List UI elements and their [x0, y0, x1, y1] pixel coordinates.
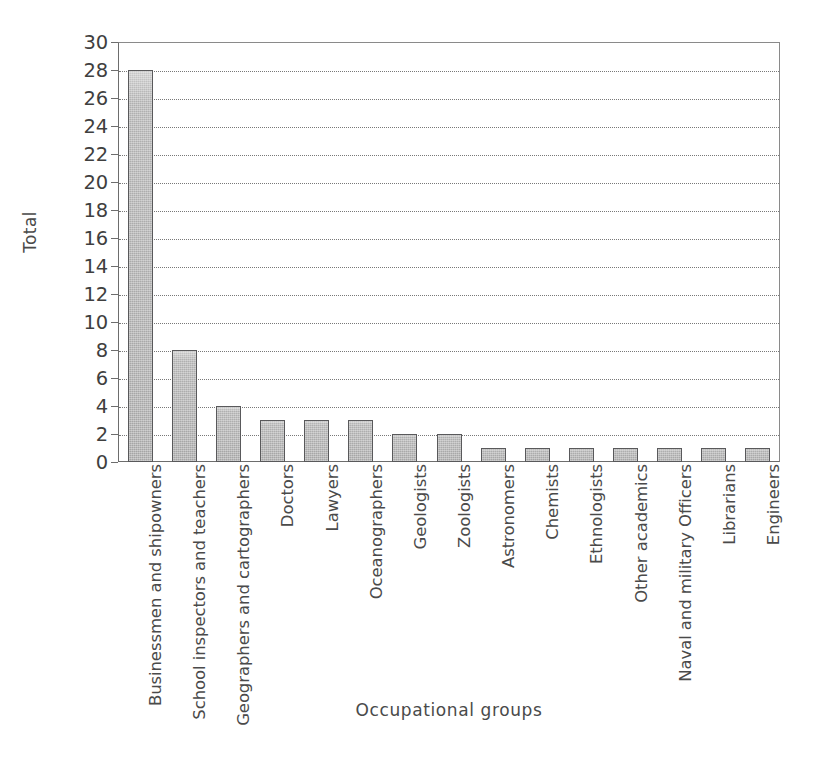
bar[interactable] — [657, 448, 682, 462]
bar[interactable] — [348, 420, 373, 462]
x-tick-label-text: Oceanographers — [369, 464, 386, 599]
y-tick-mark-28 — [111, 70, 118, 71]
gridline-12 — [119, 295, 779, 296]
y-axis-labels: 024681012141618202224262830 — [0, 42, 108, 462]
x-tick-label-text: Librarians — [722, 464, 739, 545]
y-tick-mark-10 — [111, 322, 118, 323]
y-tick-mark-8 — [111, 350, 118, 351]
y-tick-mark-14 — [111, 266, 118, 267]
y-tick-mark-0 — [111, 462, 118, 463]
gridline-14 — [119, 267, 779, 268]
x-tick-label-text: Engineers — [766, 464, 783, 545]
gridline-16 — [119, 239, 779, 240]
x-tick-label: Doctors — [272, 464, 289, 527]
x-tick-label-text: Other academics — [634, 464, 651, 603]
y-tick-label-28: 28 — [84, 59, 108, 82]
y-tick-label-24: 24 — [84, 115, 108, 138]
y-tick-mark-18 — [111, 210, 118, 211]
bar[interactable] — [525, 448, 550, 462]
bar[interactable] — [701, 448, 726, 462]
gridline-10 — [119, 323, 779, 324]
y-tick-label-0: 0 — [96, 451, 108, 474]
bar[interactable] — [613, 448, 638, 462]
bar[interactable] — [216, 406, 241, 462]
bar[interactable] — [392, 434, 417, 462]
gridline-22 — [119, 155, 779, 156]
y-tick-label-6: 6 — [96, 367, 108, 390]
x-tick-label-text: Astronomers — [501, 464, 518, 568]
bar[interactable] — [745, 448, 770, 462]
plot-area — [118, 42, 780, 462]
x-tick-label-text: Businessmen and shipowners — [148, 464, 165, 706]
x-tick-label: Naval and military Officers — [670, 464, 687, 682]
y-tick-mark-26 — [111, 98, 118, 99]
x-axis-labels: Businessmen and shipownersSchool inspect… — [118, 464, 780, 682]
x-tick-label: Librarians — [714, 464, 731, 545]
gridline-8 — [119, 351, 779, 352]
y-tick-mark-12 — [111, 294, 118, 295]
bar[interactable] — [260, 420, 285, 462]
y-tick-label-26: 26 — [84, 87, 108, 110]
x-tick-label: Chemists — [537, 464, 554, 540]
x-tick-label-text: Naval and military Officers — [678, 464, 695, 682]
y-tick-mark-6 — [111, 378, 118, 379]
y-tick-label-12: 12 — [84, 283, 108, 306]
y-tick-label-18: 18 — [84, 199, 108, 222]
y-tick-mark-16 — [111, 238, 118, 239]
gridline-26 — [119, 99, 779, 100]
x-tick-label: Geographers and cartographers — [228, 464, 245, 726]
y-tick-label-14: 14 — [84, 255, 108, 278]
x-tick-label: Oceanographers — [361, 464, 378, 599]
gridline-28 — [119, 71, 779, 72]
bar-chart: Total 024681012141618202224262830 Busine… — [0, 0, 819, 760]
bar[interactable] — [569, 448, 594, 462]
y-tick-label-10: 10 — [84, 311, 108, 334]
gridline-6 — [119, 379, 779, 380]
gridline-20 — [119, 183, 779, 184]
y-tick-mark-4 — [111, 406, 118, 407]
x-tick-label-text: Ethnologists — [590, 464, 607, 564]
x-tick-label: School inspectors and teachers — [184, 464, 201, 720]
x-tick-label: Geologists — [405, 464, 422, 549]
y-tick-label-20: 20 — [84, 171, 108, 194]
x-tick-label-text: Zoologists — [457, 464, 474, 548]
y-tick-label-22: 22 — [84, 143, 108, 166]
y-tick-mark-20 — [111, 182, 118, 183]
y-tick-mark-24 — [111, 126, 118, 127]
x-tick-label: Lawyers — [317, 464, 334, 531]
x-tick-label-text: Doctors — [281, 464, 298, 527]
y-tick-label-8: 8 — [96, 339, 108, 362]
x-tick-label: Businessmen and shipowners — [140, 464, 157, 706]
y-tick-mark-30 — [111, 42, 118, 43]
bar[interactable] — [481, 448, 506, 462]
gridline-18 — [119, 211, 779, 212]
x-tick-label: Engineers — [758, 464, 775, 545]
y-tick-mark-2 — [111, 434, 118, 435]
bar[interactable] — [304, 420, 329, 462]
x-tick-label: Astronomers — [493, 464, 510, 568]
y-tick-label-4: 4 — [96, 395, 108, 418]
y-tick-label-16: 16 — [84, 227, 108, 250]
x-tick-label-text: Geologists — [413, 464, 430, 549]
bar[interactable] — [437, 434, 462, 462]
bar[interactable] — [128, 70, 153, 462]
y-tick-mark-22 — [111, 154, 118, 155]
x-tick-label-text: Geographers and cartographers — [237, 464, 254, 726]
x-tick-label: Zoologists — [449, 464, 466, 548]
x-tick-label-text: School inspectors and teachers — [192, 464, 209, 720]
x-tick-label: Ethnologists — [581, 464, 598, 564]
y-tick-label-2: 2 — [96, 423, 108, 446]
y-tick-label-30: 30 — [84, 31, 108, 54]
gridline-24 — [119, 127, 779, 128]
bar[interactable] — [172, 350, 197, 462]
x-tick-label: Other academics — [626, 464, 643, 603]
x-tick-label-text: Chemists — [546, 464, 563, 540]
x-axis-title: Occupational groups — [356, 700, 543, 720]
x-tick-label-text: Lawyers — [325, 464, 342, 531]
